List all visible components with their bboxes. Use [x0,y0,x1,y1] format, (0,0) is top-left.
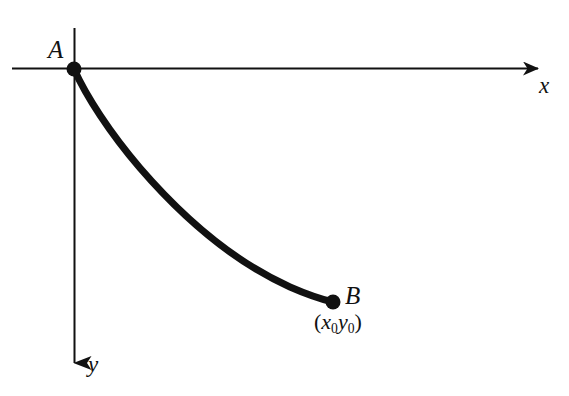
figure-canvas [0,0,569,396]
y-axis-label: y [88,353,98,376]
x-axis-label: x [539,74,549,97]
point-b-coordinate-label: (x0y0) [314,311,362,335]
point-a-label: A [48,37,63,62]
point-b-marker [326,295,341,310]
point-a-marker [67,62,82,77]
coord-y-symbol: y [338,309,348,334]
coord-close-paren: ) [354,309,361,334]
point-b-label: B [345,283,360,308]
brachistochrone-curve [74,69,333,302]
coord-x-symbol: x [321,309,331,334]
coord-x-subscript: 0 [331,321,338,336]
brachistochrone-figure: A B x y (x0y0) [0,0,569,396]
